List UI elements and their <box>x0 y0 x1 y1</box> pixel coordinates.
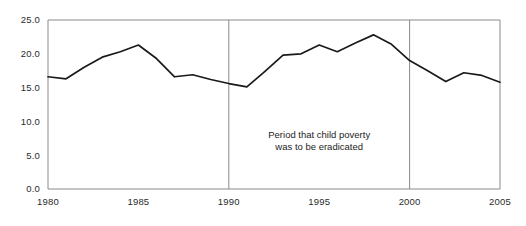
chart-background <box>0 0 526 226</box>
x-tick-label: 1985 <box>127 196 149 207</box>
x-tick-label: 2005 <box>489 196 511 207</box>
y-tick-label: 20.0 <box>21 48 40 59</box>
chart-container: 0.05.010.015.020.025.0 19801985199019952… <box>0 0 526 226</box>
y-tick-label: 10.0 <box>21 116 40 127</box>
x-tick-label: 1980 <box>37 196 59 207</box>
x-tick-label: 1990 <box>218 196 240 207</box>
y-tick-label: 15.0 <box>21 82 40 93</box>
y-tick-label: 25.0 <box>21 14 40 25</box>
y-tick-label: 0.0 <box>26 183 40 194</box>
x-tick-label: 2000 <box>399 196 421 207</box>
y-tick-label: 5.0 <box>26 150 40 161</box>
period-annotation-line-2: was to be eradicated <box>274 141 363 152</box>
x-tick-label: 1995 <box>308 196 330 207</box>
line-chart: 0.05.010.015.020.025.0 19801985199019952… <box>0 0 526 226</box>
period-annotation-line-1: Period that child poverty <box>268 129 370 140</box>
